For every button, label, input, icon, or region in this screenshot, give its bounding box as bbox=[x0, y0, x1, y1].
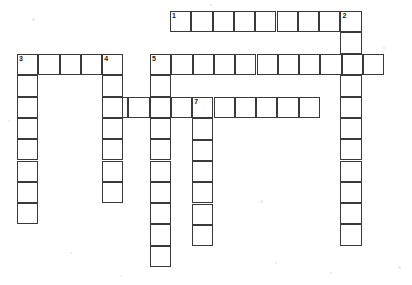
crossword-cell[interactable] bbox=[38, 54, 59, 75]
crossword-cell[interactable] bbox=[340, 161, 361, 182]
cell-number: 1 bbox=[172, 12, 176, 20]
crossword-cell[interactable] bbox=[192, 161, 213, 182]
crossword-cell[interactable] bbox=[17, 203, 38, 224]
crossword-grid[interactable]: 1234567 bbox=[0, 0, 412, 285]
crossword-cell[interactable]: 7 bbox=[192, 97, 213, 118]
scan-speck bbox=[32, 18, 35, 21]
crossword-cell[interactable] bbox=[192, 225, 213, 246]
crossword-cell[interactable] bbox=[171, 97, 192, 118]
crossword-cell[interactable] bbox=[150, 118, 171, 139]
crossword-cell[interactable] bbox=[102, 75, 123, 96]
crossword-cell[interactable] bbox=[192, 182, 213, 203]
crossword-cell[interactable]: 4 bbox=[102, 54, 123, 75]
crossword-cell[interactable] bbox=[340, 118, 361, 139]
cell-number: 3 bbox=[19, 55, 23, 63]
crossword-cell[interactable] bbox=[150, 97, 171, 118]
crossword-cell[interactable] bbox=[150, 75, 171, 96]
crossword-cell[interactable]: 3 bbox=[17, 54, 38, 75]
crossword-cell[interactable] bbox=[255, 11, 276, 32]
crossword-cell[interactable] bbox=[17, 182, 38, 203]
scan-speck bbox=[330, 272, 332, 274]
crossword-cell[interactable] bbox=[340, 139, 361, 160]
crossword-cell[interactable] bbox=[278, 54, 299, 75]
crossword-cell[interactable] bbox=[340, 32, 361, 53]
crossword-cell[interactable] bbox=[298, 11, 319, 32]
scan-speck bbox=[210, 4, 212, 6]
scan-speck bbox=[383, 47, 385, 49]
crossword-cell[interactable] bbox=[363, 54, 384, 75]
crossword-cell[interactable] bbox=[235, 97, 256, 118]
crossword-cell[interactable] bbox=[214, 54, 235, 75]
crossword-cell[interactable] bbox=[256, 97, 277, 118]
cell-number: 2 bbox=[342, 12, 346, 20]
crossword-cell[interactable] bbox=[214, 97, 235, 118]
crossword-cell[interactable] bbox=[17, 161, 38, 182]
cell-number: 5 bbox=[152, 55, 156, 63]
crossword-cell[interactable] bbox=[17, 75, 38, 96]
crossword-cell[interactable] bbox=[128, 97, 149, 118]
crossword-cell[interactable] bbox=[192, 204, 213, 225]
crossword-cell[interactable] bbox=[102, 182, 123, 203]
crossword-cell[interactable] bbox=[340, 203, 361, 224]
crossword-cell[interactable] bbox=[17, 118, 38, 139]
crossword-cell[interactable] bbox=[102, 139, 123, 160]
scan-speck bbox=[260, 200, 263, 203]
crossword-cell[interactable] bbox=[340, 97, 361, 118]
crossword-cell[interactable] bbox=[17, 139, 38, 160]
scan-speck bbox=[398, 266, 401, 269]
crossword-cell[interactable] bbox=[299, 97, 320, 118]
crossword-cell[interactable] bbox=[192, 118, 213, 139]
crossword-cell[interactable]: 5 bbox=[150, 54, 171, 75]
scan-speck bbox=[70, 252, 72, 254]
cell-number: 7 bbox=[194, 98, 198, 106]
crossword-cell[interactable] bbox=[102, 97, 123, 118]
crossword-cell[interactable] bbox=[150, 182, 171, 203]
scan-speck bbox=[8, 120, 10, 122]
cell-number: 4 bbox=[104, 55, 108, 63]
crossword-cell[interactable] bbox=[213, 11, 234, 32]
crossword-cell[interactable] bbox=[277, 97, 298, 118]
scan-speck bbox=[120, 275, 122, 277]
crossword-cell[interactable] bbox=[257, 54, 278, 75]
crossword-cell[interactable] bbox=[102, 161, 123, 182]
crossword-cell[interactable] bbox=[342, 54, 363, 75]
crossword-cell[interactable] bbox=[102, 118, 123, 139]
scan-speck bbox=[275, 262, 277, 264]
crossword-cell[interactable]: 2 bbox=[340, 11, 361, 32]
crossword-cell[interactable] bbox=[171, 54, 192, 75]
crossword-cell[interactable] bbox=[150, 246, 171, 267]
crossword-cell[interactable] bbox=[319, 11, 340, 32]
crossword-cell[interactable] bbox=[150, 161, 171, 182]
crossword-cell[interactable]: 1 bbox=[170, 11, 191, 32]
crossword-cell[interactable] bbox=[150, 139, 171, 160]
crossword-cell[interactable] bbox=[340, 182, 361, 203]
crossword-cell[interactable] bbox=[150, 224, 171, 245]
crossword-cell[interactable] bbox=[60, 54, 81, 75]
crossword-cell[interactable] bbox=[193, 54, 214, 75]
crossword-cell[interactable] bbox=[277, 11, 298, 32]
crossword-cell[interactable] bbox=[234, 11, 255, 32]
crossword-cell[interactable] bbox=[340, 75, 361, 96]
crossword-cell[interactable] bbox=[340, 224, 361, 245]
crossword-cell[interactable] bbox=[17, 97, 38, 118]
crossword-cell[interactable] bbox=[235, 54, 256, 75]
crossword-cell[interactable] bbox=[191, 11, 212, 32]
crossword-cell[interactable] bbox=[150, 203, 171, 224]
crossword-cell[interactable] bbox=[81, 54, 102, 75]
crossword-cell[interactable] bbox=[299, 54, 320, 75]
crossword-cell[interactable] bbox=[192, 140, 213, 161]
crossword-cell[interactable] bbox=[320, 54, 341, 75]
